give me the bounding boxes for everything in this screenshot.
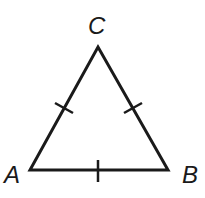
triangle-diagram: C A B — [0, 0, 205, 198]
vertex-label-b: B — [182, 163, 198, 187]
triangle-abc — [30, 47, 168, 170]
vertex-label-c: C — [88, 14, 105, 38]
vertex-label-a: A — [4, 163, 20, 187]
